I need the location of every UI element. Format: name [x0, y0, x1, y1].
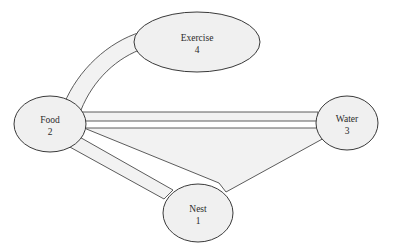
node-exercise-label: Exercise: [181, 33, 214, 43]
node-food-label: Food: [40, 115, 60, 125]
node-water-value: 3: [345, 126, 350, 136]
node-nest-label: Nest: [189, 204, 207, 214]
node-water[interactable]: Water 3: [316, 96, 378, 150]
node-nest[interactable]: Nest 1: [163, 184, 233, 242]
node-water-label: Water: [336, 114, 359, 124]
node-food[interactable]: Food 2: [14, 96, 86, 152]
edge-food-exercise: [64, 32, 145, 110]
node-exercise[interactable]: Exercise 4: [134, 12, 260, 72]
node-exercise-value: 4: [195, 45, 200, 55]
graph-svg: Exercise 4 Food 2 Water 3 Nest 1: [0, 0, 395, 247]
diagram-canvas: Exercise 4 Food 2 Water 3 Nest 1: [0, 0, 395, 247]
nodes-layer: Exercise 4 Food 2 Water 3 Nest 1: [14, 12, 378, 242]
node-nest-value: 1: [196, 216, 201, 226]
node-food-value: 2: [48, 127, 53, 137]
edge-food-water: [81, 112, 318, 121]
